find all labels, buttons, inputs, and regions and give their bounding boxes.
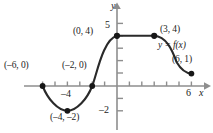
point-label-neg4-neg2: (–4, –2) <box>50 113 79 123</box>
function-graph-figure: (–6, 0) (–2, 0) (–4, –2) (0, 4) (3, 4) (… <box>0 0 213 133</box>
y-tick-label-5: 5 <box>105 20 110 30</box>
function-label: y = f(x) <box>158 41 186 51</box>
point-label-3-4: (3, 4) <box>160 25 180 35</box>
x-axis-label: x <box>199 88 203 98</box>
point-3-4 <box>151 33 157 39</box>
point-label-neg2-0: (–2, 0) <box>62 61 87 71</box>
point-0-4 <box>114 33 120 39</box>
y-tick-label-neg2: –2 <box>99 105 109 115</box>
x-tick-label-6: 6 <box>186 88 191 98</box>
point-neg2-0 <box>89 83 95 89</box>
x-axis-arrow <box>204 82 211 90</box>
x-tick-label-neg4: –4 <box>61 89 71 99</box>
point-label-6-1: (6, 1) <box>172 55 192 65</box>
y-axis-label: y <box>111 1 115 11</box>
point-label-neg6-0: (–6, 0) <box>4 61 29 71</box>
point-label-0-4: (0, 4) <box>73 27 93 37</box>
point-6-1 <box>189 71 195 77</box>
point-neg6-0 <box>40 83 46 89</box>
